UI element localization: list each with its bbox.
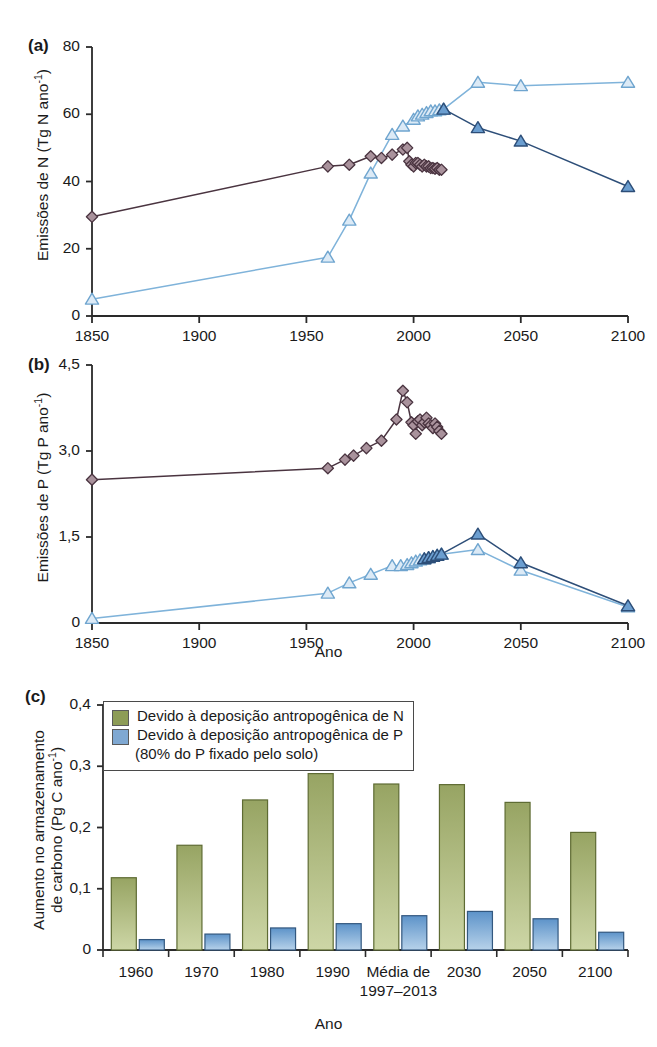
panel-c-x-axis-label: Ano — [0, 1015, 657, 1033]
legend-label-n: Devido à deposição antropogênica de N — [137, 707, 404, 725]
legend-item-p: Devido à deposição antropogênica de P — [112, 726, 404, 745]
x-tick-label: 2000 — [379, 327, 449, 345]
y-tick-label: 80 — [30, 37, 80, 55]
legend-sub-note: (80% do P fixado pelo solo) — [112, 745, 404, 764]
legend-swatch-p — [112, 729, 129, 745]
panel-b-x-axis-label: Ano — [0, 643, 657, 661]
y-tick-label: 40 — [30, 172, 80, 190]
panel-a: (a) Emissões de N (Tg N ano-1) 020406080… — [0, 0, 657, 345]
y-tick-label: 0,4 — [41, 695, 91, 713]
y-tick-label: 60 — [30, 104, 80, 122]
y-tick-label: 0 — [30, 613, 80, 631]
x-tick-label: 1900 — [164, 327, 234, 345]
x-tick-label: 2050 — [486, 327, 556, 345]
y-tick-label: 4,5 — [30, 355, 80, 373]
figure-root: (a) Emissões de N (Tg N ano-1) 020406080… — [0, 0, 657, 1047]
legend-swatch-n — [112, 710, 129, 726]
panel-c: (c) Aumento no armazenamento de carbono … — [0, 685, 657, 1047]
y-tick-label: 0,3 — [41, 756, 91, 774]
y-tick-label: 0,1 — [41, 879, 91, 897]
x-tick-label: 1850 — [57, 327, 127, 345]
panel-a-plot — [0, 0, 657, 345]
y-tick-label: 0 — [30, 306, 80, 324]
legend-label-p: Devido à deposição antropogênica de P — [137, 726, 403, 744]
legend-item-n: Devido à deposição antropogênica de N — [112, 707, 404, 726]
y-tick-label: 20 — [30, 239, 80, 257]
panel-b: (b) Emissões de P (Tg P ano-1) 01,53,04,… — [0, 345, 657, 685]
x-tick-label: 1950 — [271, 327, 341, 345]
category-label: 2100 — [548, 962, 642, 981]
y-tick-label: 0 — [41, 940, 91, 958]
x-tick-label: 2100 — [593, 327, 657, 345]
y-tick-label: 1,5 — [30, 527, 80, 545]
y-tick-label: 0,2 — [41, 818, 91, 836]
y-tick-label: 3,0 — [30, 441, 80, 459]
panel-c-legend: Devido à deposição antropogênica de N De… — [103, 701, 414, 771]
